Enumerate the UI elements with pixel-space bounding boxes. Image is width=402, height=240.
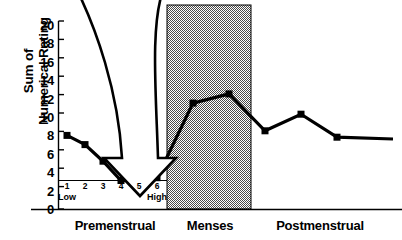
data-point [298,111,305,118]
down-arrow-icon [76,0,176,196]
menses-shaded-band [167,5,251,209]
x-tick-3: 3 [96,182,110,191]
phase-label-menses: Menses [170,218,250,233]
x-tick-6: 6 [150,182,164,191]
data-point [262,127,269,134]
x-tick-4: 4 [114,182,128,191]
plot-area [0,0,402,240]
x-tick-2: 2 [78,182,92,191]
x-scale-high-label: High [140,192,174,202]
chart-figure: Sum ofNumerical Rating 20 18 16 14 12 10… [0,0,402,240]
x-tick-5: 5 [132,182,146,191]
data-point [82,141,89,148]
data-point [226,90,233,97]
x-tick-1: 1 [60,182,74,191]
data-point [334,134,341,141]
phase-label-postmenstrual: Postmenstrual [250,218,390,233]
x-scale-low-label: Low [50,192,84,202]
phase-label-premenstrual: Premenstrual [55,218,175,233]
data-point [64,132,71,139]
data-point [190,100,197,107]
